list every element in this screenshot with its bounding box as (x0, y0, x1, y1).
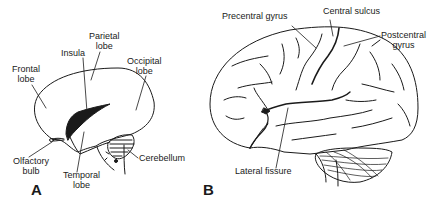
label-postcentral-gyrus: Postcentral gyrus (381, 30, 426, 50)
label-olfactory-bulb: Olfactory bulb (13, 156, 49, 176)
insula-shape (66, 104, 110, 140)
label-lateral-fissure: Lateral fissure (235, 166, 292, 176)
label-frontal-lobe: Frontal lobe (12, 64, 40, 84)
label-occipital-lobe: Occipital lobe (127, 56, 162, 76)
panel-b-brain-outline (210, 27, 418, 186)
label-parietal-lobe: Parietal lobe (89, 31, 120, 51)
label-central-sulcus: Central sulcus (323, 6, 380, 16)
label-cerebellum: Cerebellum (139, 153, 185, 163)
panel-b-letter: B (203, 182, 214, 197)
panel-a-letter: A (31, 182, 42, 197)
cerebellum-a (105, 135, 134, 163)
label-temporal-lobe: Temporal lobe (63, 170, 100, 190)
label-insula: Insula (61, 48, 85, 58)
label-precentral-gyrus: Precentral gyrus (222, 11, 288, 21)
panel-a-brain-outline (34, 68, 154, 174)
cerebellum-b (315, 148, 392, 182)
